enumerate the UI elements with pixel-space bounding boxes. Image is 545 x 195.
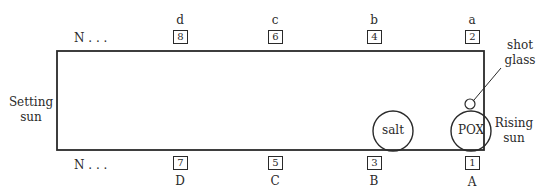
setting-sun-label: Setting sun bbox=[8, 95, 54, 125]
top-letter-b: b bbox=[364, 14, 384, 27]
rising-sun-line-1: Rising bbox=[488, 116, 540, 131]
salt-label: salt bbox=[373, 124, 413, 137]
shot-glass-circle bbox=[465, 99, 475, 109]
seat-box-6: 6 bbox=[268, 30, 283, 44]
bottom-letter-A: A bbox=[462, 176, 482, 189]
rising-sun-line-2: sun bbox=[488, 131, 540, 146]
seat-box-8: 8 bbox=[173, 30, 188, 44]
seat-box-7: 7 bbox=[173, 156, 188, 170]
seat-box-5: 5 bbox=[268, 156, 283, 170]
seat-box-1: 1 bbox=[465, 156, 480, 170]
shot-glass-line-1: shot bbox=[498, 38, 542, 53]
pox-label: POX bbox=[451, 124, 491, 137]
shot-glass-leader-line bbox=[474, 68, 501, 100]
shot-glass-line-2: glass bbox=[498, 53, 542, 68]
bottom-letter-D: D bbox=[170, 175, 190, 188]
rising-sun-label: Rising sun bbox=[488, 116, 540, 146]
seat-box-3: 3 bbox=[367, 156, 382, 170]
top-letter-a: a bbox=[462, 14, 482, 27]
bottom-letter-B: B bbox=[364, 175, 384, 188]
bottom-letter-C: C bbox=[265, 175, 285, 188]
bottom-row-start-label: N . . . bbox=[74, 159, 107, 172]
setting-sun-line-2: sun bbox=[8, 110, 54, 125]
top-letter-d: d bbox=[170, 14, 190, 27]
table-rectangle bbox=[57, 51, 484, 150]
top-row-start-label: N . . . bbox=[74, 32, 107, 45]
setting-sun-line-1: Setting bbox=[8, 95, 54, 110]
seat-box-2: 2 bbox=[465, 30, 480, 44]
shot-glass-label: shot glass bbox=[498, 38, 542, 68]
seat-box-4: 4 bbox=[367, 30, 382, 44]
top-letter-c: c bbox=[265, 14, 285, 27]
